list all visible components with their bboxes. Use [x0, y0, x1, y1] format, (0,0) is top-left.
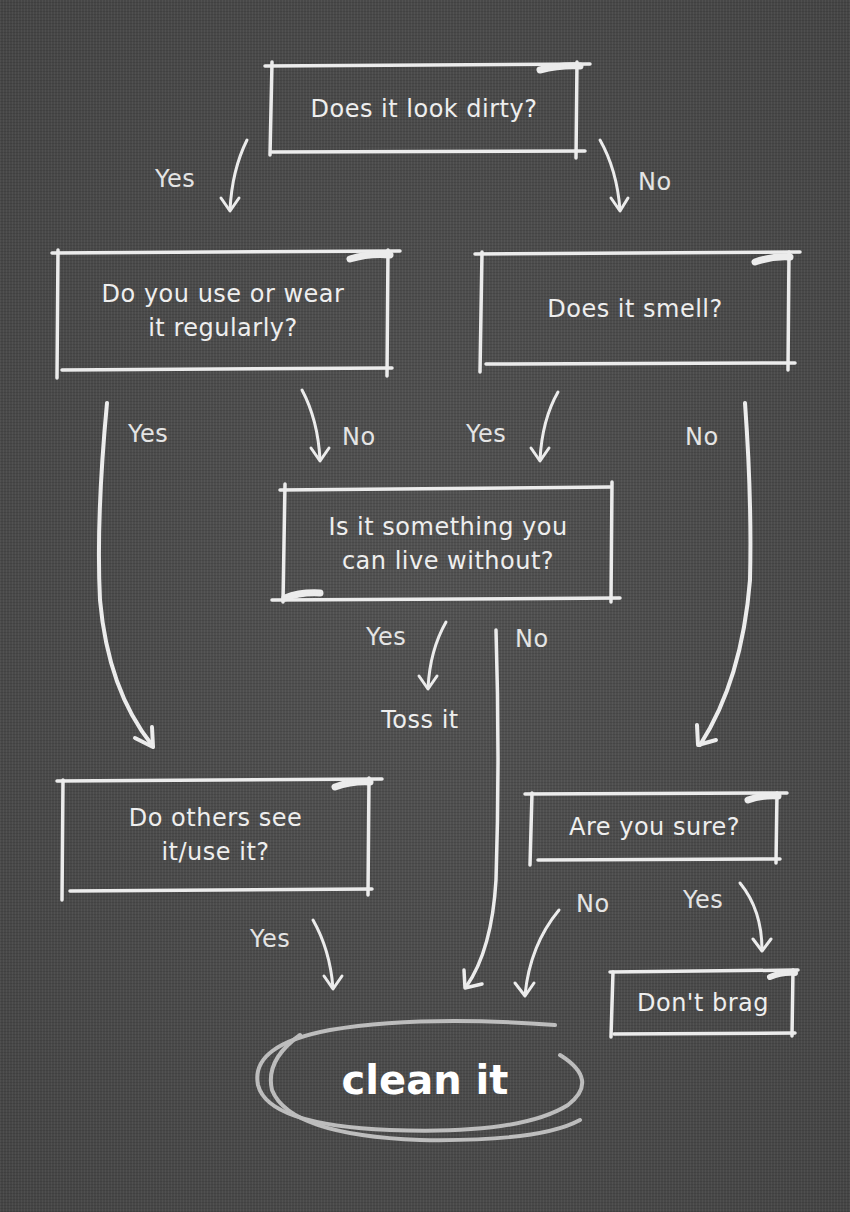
edge-label-dirty-no: No [638, 168, 672, 196]
node-text-line1: Do others see [129, 801, 302, 835]
terminal-text: clean it [342, 1057, 509, 1103]
edge-label-live-yes: Yes [366, 623, 406, 651]
result-clean-it: clean it [290, 1045, 560, 1115]
arrow-dirty-yes [221, 140, 247, 211]
node-text-line1: Do you use or wear [102, 277, 345, 311]
node-can-live-without: Is it something you can live without? [285, 490, 611, 598]
node-text: Does it smell? [547, 292, 723, 326]
node-are-you-sure: Are you sure? [532, 795, 777, 859]
node-text-line2: it regularly? [148, 311, 298, 345]
arrow-smell-yes [531, 392, 558, 461]
node-does-it-smell: Does it smell? [482, 254, 788, 364]
edge-label-live-no: No [515, 625, 549, 653]
edge-label-use-yes: Yes [128, 420, 168, 448]
flowchart-board: Does it look dirty? Do you use or wear i… [0, 0, 850, 1212]
edge-label-smell-yes: Yes [466, 420, 506, 448]
arrow-sure-no [515, 910, 559, 996]
edge-label-sure-yes: Yes [683, 886, 723, 914]
edge-label-smell-no: No [685, 423, 719, 451]
arrow-others-yes [313, 920, 342, 989]
arrow-sure-yes [740, 883, 771, 951]
arrow-dirty-no [600, 140, 628, 211]
result-toss-it: Toss it [360, 700, 480, 740]
node-use-or-wear-regularly: Do you use or wear it regularly? [58, 253, 388, 369]
edge-label-others-yes: Yes [250, 925, 290, 953]
result-dont-brag: Don't brag [613, 972, 793, 1034]
edge-label-use-no: No [342, 423, 376, 451]
node-text: Does it look dirty? [311, 92, 538, 126]
node-text-line2: can live without? [342, 544, 554, 578]
node-text: Toss it [381, 703, 458, 737]
edge-label-sure-no: No [576, 890, 610, 918]
node-text-line2: it/use it? [161, 835, 269, 869]
node-text: Are you sure? [569, 810, 740, 844]
node-text-line1: Is it something you [328, 510, 567, 544]
arrow-live-no [464, 630, 498, 988]
node-does-it-look-dirty: Does it look dirty? [272, 66, 576, 152]
arrow-smell-no [697, 403, 750, 745]
node-do-others-see: Do others see it/use it? [63, 781, 368, 889]
arrow-use-no [302, 390, 329, 461]
arrow-live-yes [419, 622, 446, 689]
node-text: Don't brag [637, 986, 769, 1020]
arrow-use-yes [99, 403, 153, 747]
edge-label-dirty-yes: Yes [155, 165, 195, 193]
